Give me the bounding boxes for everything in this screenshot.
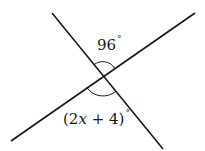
top-angle-value: 96 bbox=[97, 36, 116, 54]
degree-symbol: ° bbox=[117, 34, 122, 44]
top-angle-label: 96° bbox=[97, 38, 122, 53]
bottom-angle-label: (2x + 4)° bbox=[63, 112, 130, 127]
bottom-angle-arc bbox=[87, 87, 116, 96]
bottom-angle-open: (2 bbox=[63, 110, 78, 128]
degree-symbol: ° bbox=[125, 108, 130, 118]
diagram-lines bbox=[0, 0, 205, 151]
variable-x: x bbox=[78, 110, 86, 128]
vertical-angles-diagram: 96° (2x + 4)° bbox=[0, 0, 205, 151]
bottom-angle-rest: + 4) bbox=[87, 110, 125, 128]
line-1 bbox=[52, 13, 163, 149]
